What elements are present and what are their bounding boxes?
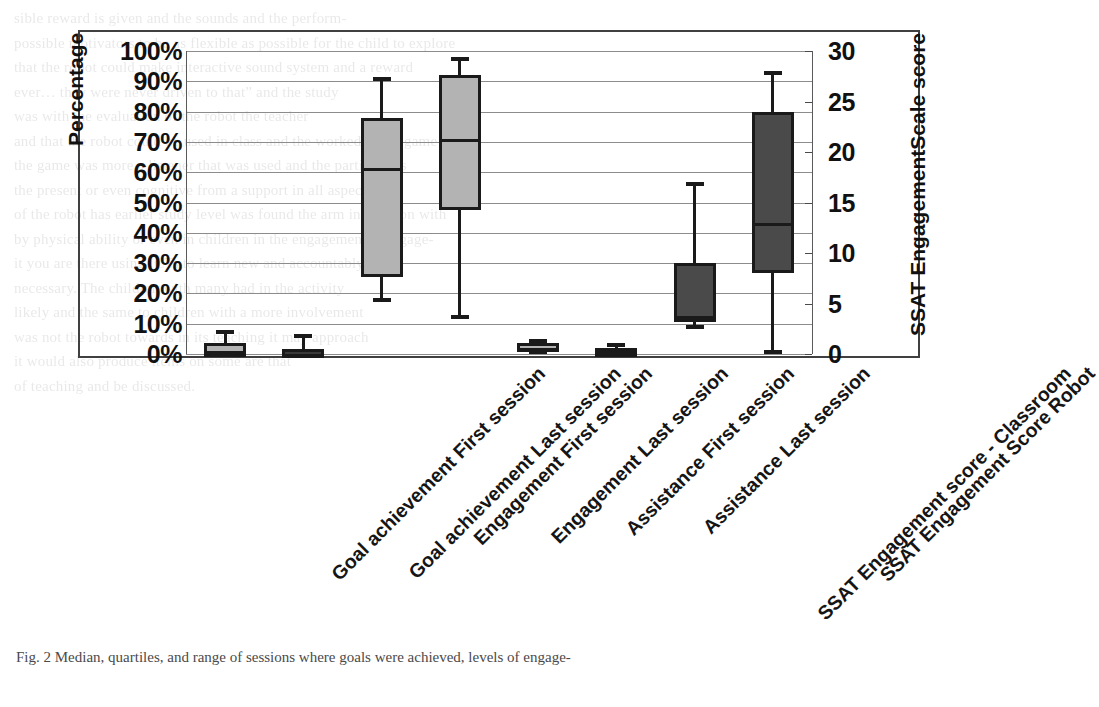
whisker-lower [458, 210, 461, 319]
whisker-cap-lower [373, 298, 391, 302]
y-axis-tick-right [805, 51, 812, 52]
y-tick-label-right: 30 [828, 37, 855, 66]
whisker-cap-upper [373, 77, 391, 81]
x-tick-label: SSAT Engagement Score Robot [875, 362, 1099, 586]
box-plot-group[interactable] [674, 51, 716, 354]
whisker-cap-upper [764, 71, 782, 75]
y-tick-label-right: 20 [828, 138, 855, 167]
median-line [361, 168, 403, 171]
whisker-cap-upper [529, 339, 547, 343]
gridline [186, 81, 812, 82]
y-axis-tick-right [805, 304, 812, 305]
whisker-upper [380, 77, 383, 118]
median-line [517, 348, 559, 351]
gridline [186, 172, 812, 173]
x-tick-label: SSAT Engagement score - Classroom [813, 362, 1076, 625]
y-tick-label-right: 25 [828, 87, 855, 116]
median-line [752, 223, 794, 226]
box-plot-group[interactable] [752, 51, 794, 354]
median-line [674, 319, 716, 322]
whisker-cap-upper [607, 343, 625, 347]
y-axis-line-left [186, 51, 187, 354]
whisker-upper [693, 182, 696, 263]
gridline [186, 203, 812, 204]
y-tick-label-right: 10 [828, 239, 855, 268]
y-tick-label-left: 30% [133, 249, 182, 278]
gridline [186, 263, 812, 264]
y-axis-tick-labels-left: 100%90%80%70%60%50%40%30%20%10%0% [102, 51, 182, 354]
box-plot-group[interactable] [204, 51, 246, 354]
y-axis-tick-labels-right: 302520151050 [828, 51, 888, 354]
whisker-upper [771, 71, 774, 111]
y-tick-label-left: 100% [120, 37, 182, 66]
gridline [186, 51, 812, 52]
median-line [204, 354, 246, 357]
y-tick-label-left: 40% [133, 218, 182, 247]
box-plot-figure: Percentage SSAT EngagementScale score 10… [16, 6, 936, 631]
figure-caption: Fig. 2 Median, quartiles, and range of s… [16, 648, 916, 667]
gridline [186, 354, 812, 355]
box-iqr [752, 112, 794, 274]
y-axis-tick-right [805, 152, 812, 153]
box-iqr [439, 75, 481, 210]
y-axis-tick-right [805, 102, 812, 103]
y-axis-title-left: Percentage [64, 33, 88, 146]
box-plot-group[interactable] [517, 51, 559, 354]
box-plot-group[interactable] [439, 51, 481, 354]
box-iqr [204, 343, 246, 354]
y-tick-label-right: 15 [828, 188, 855, 217]
whisker-cap-upper [686, 182, 704, 186]
y-axis-title-right: SSAT EngagementScale score [906, 33, 930, 336]
median-line [439, 139, 481, 142]
y-tick-label-left: 0% [147, 340, 182, 369]
whisker-cap-upper [294, 334, 312, 338]
y-tick-label-left: 50% [133, 188, 182, 217]
box-iqr [674, 263, 716, 319]
box-plot-group[interactable] [595, 51, 637, 354]
y-axis-tick-right [805, 253, 812, 254]
whisker-cap-lower [686, 325, 704, 329]
whisker-cap-lower [451, 315, 469, 319]
x-axis-tick-labels: Goal achievement First sessionGoal achie… [186, 358, 826, 628]
gridline [186, 142, 812, 143]
box-plot-group[interactable] [282, 51, 324, 354]
gridline [186, 293, 812, 294]
median-line [282, 354, 324, 357]
y-tick-label-left: 80% [133, 97, 182, 126]
box-iqr [361, 118, 403, 277]
y-tick-label-right: 0 [828, 340, 841, 369]
y-tick-label-left: 20% [133, 279, 182, 308]
y-tick-label-left: 10% [133, 309, 182, 338]
y-tick-label-left: 90% [133, 67, 182, 96]
gridline [186, 324, 812, 325]
gridline [186, 112, 812, 113]
y-tick-label-left: 60% [133, 158, 182, 187]
y-axis-tick-right [805, 354, 812, 355]
whisker-lower [771, 273, 774, 354]
box-plot-group[interactable] [361, 51, 403, 354]
y-tick-label-right: 5 [828, 289, 841, 318]
y-axis-line-right [812, 51, 813, 354]
y-axis-tick-right [805, 203, 812, 204]
y-tick-label-left: 70% [133, 127, 182, 156]
gridline [186, 233, 812, 234]
whisker-cap-upper [216, 330, 234, 334]
plot-area [186, 51, 812, 354]
whisker-cap-upper [451, 57, 469, 61]
median-line [595, 351, 637, 354]
whisker-cap-lower [764, 350, 782, 354]
